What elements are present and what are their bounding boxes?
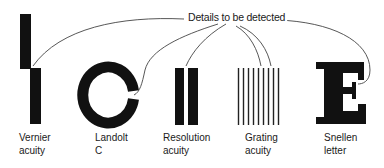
label-grating-acuity: Grating acuity [245, 131, 278, 157]
label-resolution-acuity: Resolution acuity [163, 131, 210, 157]
label-landolt-c: Landolt C [95, 131, 128, 157]
label-snellen-letter: Snellen letter [324, 131, 357, 157]
figure-title: Details to be detected [186, 11, 287, 23]
grating-icon [239, 68, 279, 125]
resolution-bars-icon [175, 68, 198, 125]
vernier-target-icon [20, 14, 41, 124]
label-vernier-acuity: Vernier acuity [19, 131, 51, 157]
snellen-e-icon [316, 62, 366, 124]
landolt-c-icon [83, 67, 134, 123]
